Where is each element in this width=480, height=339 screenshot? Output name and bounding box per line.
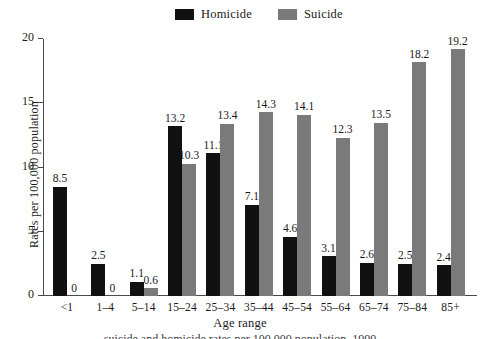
y-axis-tick-label: 5 <box>4 223 34 238</box>
x-axis-tick-label: 5–14 <box>132 301 156 313</box>
bar-group: 7.114.335–44 <box>245 39 273 296</box>
bar-suicide: 14.3 <box>259 112 273 296</box>
bar-homicide: 4.6 <box>283 237 297 296</box>
bar-value-label: 2.6 <box>360 249 374 261</box>
y-axis-line <box>43 39 44 296</box>
bar-group: 4.614.145–54 <box>283 39 311 296</box>
x-axis-tick-label: 75–84 <box>397 301 427 313</box>
bar-value-label: 2.5 <box>91 250 105 262</box>
y-axis-tick: 15 <box>38 102 43 103</box>
bar-value-label: 13.4 <box>217 110 237 122</box>
y-axis-tick-label: 20 <box>4 30 34 45</box>
bar-value-label: 3.1 <box>321 243 335 255</box>
bar-suicide: 19.2 <box>451 49 465 296</box>
bar-value-label: 7.1 <box>245 191 259 203</box>
bar-suicide: 10.3 <box>182 164 196 296</box>
bar-value-label: 4.6 <box>283 223 297 235</box>
bar-suicide: 0.6 <box>144 288 158 296</box>
y-axis-tick: 0 <box>38 295 43 296</box>
bar-suicide: 14.1 <box>297 115 311 296</box>
y-axis-title: Rates per 100,000 population <box>27 55 42 295</box>
y-axis-tick-label: 0 <box>4 287 34 302</box>
bar-group: 2.518.275–84 <box>398 39 426 296</box>
x-axis-tick-label: 85+ <box>441 301 460 313</box>
x-axis-tick-label: 35–44 <box>244 301 274 313</box>
bar-group: 2.613.565–74 <box>360 39 388 296</box>
bar-suicide: 13.4 <box>220 124 234 296</box>
legend-label-homicide: Homicide <box>201 8 252 21</box>
x-axis-title: Age range <box>0 316 480 331</box>
bar-homicide: 1.1 <box>130 282 144 296</box>
y-axis-tick: 10 <box>38 167 43 168</box>
bar-value-label: 1.1 <box>130 268 144 280</box>
bar-homicide: 11.1 <box>206 153 220 296</box>
bar-homicide: 2.4 <box>437 265 451 296</box>
bar-value-label: 8.5 <box>53 173 67 185</box>
legend-entry-homicide: Homicide <box>175 8 252 21</box>
bar-value-label: 14.3 <box>256 99 276 111</box>
x-axis-tick-label: 65–74 <box>359 301 389 313</box>
x-axis-tick-label: 1–4 <box>96 301 114 313</box>
x-axis-tick-label: 25–34 <box>206 301 236 313</box>
y-axis-tick: 5 <box>38 231 43 232</box>
bar-homicide: 7.1 <box>245 205 259 296</box>
bar-value-label: 18.2 <box>409 49 429 61</box>
bar-value-label: 2.4 <box>436 252 450 264</box>
bar-suicide: 12.3 <box>336 138 350 296</box>
bar-value-label: 10.3 <box>179 150 199 162</box>
bar-value-label: 12.3 <box>332 124 352 136</box>
bar-value-label: 19.2 <box>448 36 468 48</box>
bar-suicide: 13.5 <box>374 123 388 296</box>
y-axis-tick-label: 15 <box>4 94 34 109</box>
x-axis-tick-label: 15–24 <box>167 301 197 313</box>
plot-area: 05101520 8.50<12.501–41.10.65–1413.210.3… <box>43 39 477 296</box>
bar-group: 8.50<1 <box>53 39 81 296</box>
x-axis-tick-label: 55–64 <box>321 301 351 313</box>
bar-group: 2.419.285+ <box>437 39 465 296</box>
x-axis-tick-label: 45–54 <box>282 301 312 313</box>
legend-label-suicide: Suicide <box>304 8 343 21</box>
bar-group: 11.113.425–34 <box>206 39 234 296</box>
figure-caption: suicide and homicide rates per 100,000 p… <box>0 332 480 339</box>
legend-entry-suicide: Suicide <box>278 8 343 21</box>
bar-homicide: 2.5 <box>91 264 105 296</box>
x-axis-tick-label: <1 <box>61 301 74 313</box>
bar-group: 1.10.65–14 <box>130 39 158 296</box>
chart-legend: Homicide Suicide <box>175 8 343 21</box>
bar-group: 13.210.315–24 <box>168 39 196 296</box>
bar-value-label: 13.5 <box>371 109 391 121</box>
bar-value-label: 13.2 <box>165 113 185 125</box>
y-axis-tick-label: 10 <box>4 159 34 174</box>
bar-suicide: 18.2 <box>412 62 426 296</box>
bar-group: 3.112.355–64 <box>322 39 350 296</box>
bar-chart-figure: Homicide Suicide Rates per 100,000 popul… <box>0 0 480 339</box>
y-axis-tick: 20 <box>38 38 43 39</box>
bar-homicide: 3.1 <box>322 256 336 296</box>
bar-homicide: 8.5 <box>53 187 67 296</box>
bar-homicide: 2.6 <box>360 263 374 296</box>
bar-value-label: 0.6 <box>144 275 158 287</box>
bar-homicide: 2.5 <box>398 264 412 296</box>
legend-swatch-homicide <box>175 9 194 20</box>
bar-value-label: 2.5 <box>398 250 412 262</box>
bar-value-label: 14.1 <box>294 101 314 113</box>
legend-swatch-suicide <box>278 9 297 20</box>
bar-value-label: 0 <box>109 283 115 295</box>
bar-group: 2.501–4 <box>91 39 119 296</box>
bar-value-label: 0 <box>71 283 77 295</box>
